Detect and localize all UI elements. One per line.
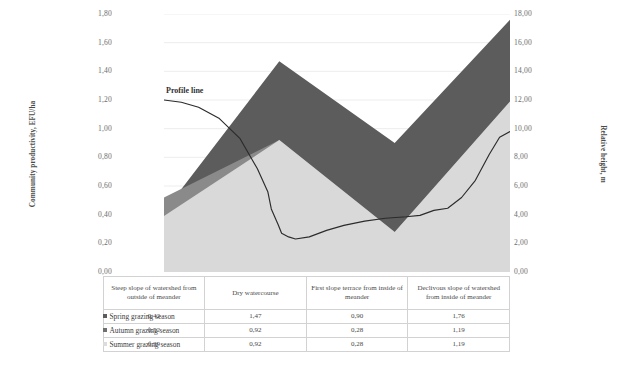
legend-item-label: Autumn grazing season [110, 326, 180, 335]
y-tick-left: 1,60 [78, 38, 112, 47]
y-tick-left: 0,00 [78, 267, 112, 276]
y-tick-right: 10,00 [514, 124, 548, 133]
table-column-header: Dry watercourse [205, 277, 307, 310]
profile-line-label: Profile line [166, 86, 203, 95]
table-cell-value: 0,92 [205, 324, 307, 338]
plot-area [164, 14, 510, 272]
y-tick-right: 0,00 [514, 267, 548, 276]
table-cell-value: 1,47 [205, 310, 307, 324]
table-cell-value: 1,19 [408, 338, 510, 352]
y-tick-right: 2,00 [514, 238, 548, 247]
y-axis-left-title: Community productivity, EFU/ha [29, 74, 37, 234]
table-column-header: Declivous slope of watershed from inside… [408, 277, 510, 310]
chart-svg [164, 14, 510, 272]
y-tick-right: 4,00 [514, 210, 548, 219]
y-tick-right: 6,00 [514, 181, 548, 190]
y-tick-left: 1,00 [78, 124, 112, 133]
table-cell-value: 1,76 [408, 310, 510, 324]
table-row: Spring grazing season0,421,470,901,76 [103, 310, 510, 324]
legend-swatch-icon [103, 314, 107, 318]
table-cell-value: 1,19 [408, 324, 510, 338]
table-cell-value: 0,90 [306, 310, 408, 324]
legend-item-label: Summer grazing season [110, 340, 181, 349]
table-cell-value: 0,28 [306, 338, 408, 352]
y-tick-right: 18,00 [514, 9, 548, 18]
y-tick-left: 0,60 [78, 181, 112, 190]
y-tick-left: 1,20 [78, 95, 112, 104]
y-tick-left: 0,20 [78, 238, 112, 247]
y-axis-right-ticks: 0,002,004,006,008,0010,0012,0014,0016,00… [514, 0, 548, 368]
chart-figure: Community productivity, EFU/ha Relative … [0, 0, 617, 368]
y-axis-right-title: Relative height, m [599, 74, 607, 234]
table-cell-value: 0,28 [306, 324, 408, 338]
table-row: Autumn grazing season0,520,920,281,19 [103, 324, 510, 338]
y-tick-left: 1,40 [78, 66, 112, 75]
table-column-header: Steep slope of watershed from outside of… [103, 277, 205, 310]
legend-item-label: Spring grazing season [110, 312, 175, 321]
data-table: Steep slope of watershed from outside of… [103, 276, 510, 352]
table-column-header: First slope terrace from inside of meand… [306, 277, 408, 310]
y-tick-left: 1,80 [78, 9, 112, 18]
y-tick-right: 14,00 [514, 66, 548, 75]
legend-swatch-icon [103, 328, 107, 332]
y-tick-left: 0,40 [78, 210, 112, 219]
y-tick-left: 0,80 [78, 152, 112, 161]
y-tick-right: 12,00 [514, 95, 548, 104]
y-tick-right: 8,00 [514, 152, 548, 161]
area-series-group [164, 20, 510, 272]
y-tick-right: 16,00 [514, 38, 548, 47]
table-row: Summer grazing season0,390,920,281,19 [103, 338, 510, 352]
table-header-row: Steep slope of watershed from outside of… [103, 277, 510, 310]
table-cell-value: 0,92 [205, 338, 307, 352]
legend-swatch-icon [103, 342, 107, 346]
